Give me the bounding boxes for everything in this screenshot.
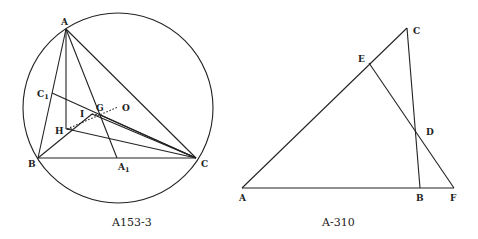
figure-a153-3: A B C A1 C1 H I G O A153-3 bbox=[23, 13, 213, 229]
label-a: A bbox=[238, 193, 247, 203]
label-b: B bbox=[28, 159, 36, 169]
label-c: C bbox=[201, 159, 208, 169]
segment-ch bbox=[67, 129, 196, 158]
label-o: O bbox=[122, 103, 130, 113]
label-h: H bbox=[55, 126, 64, 136]
side-cb bbox=[407, 28, 420, 188]
label-f: F bbox=[450, 193, 457, 203]
label-c1: C1 bbox=[37, 89, 49, 101]
label-e: E bbox=[358, 54, 365, 64]
figure-a-310: A B F C E D A-310 bbox=[238, 26, 457, 229]
label-d: D bbox=[426, 127, 434, 137]
label-g: G bbox=[96, 103, 104, 113]
label-i: I bbox=[80, 109, 84, 119]
side-ac bbox=[66, 29, 196, 158]
label-a: A bbox=[60, 17, 69, 27]
geometry-figures: A B C A1 C1 H I G O A153-3 A B F C E D A… bbox=[0, 0, 478, 239]
label-c: C bbox=[413, 26, 420, 36]
side-ac bbox=[242, 28, 407, 188]
label-b: B bbox=[416, 193, 424, 203]
circumcircle bbox=[23, 13, 213, 203]
caption-a-310: A-310 bbox=[321, 216, 355, 229]
euler-line bbox=[67, 107, 118, 129]
caption-a153-3: A153-3 bbox=[111, 216, 152, 229]
label-a1: A1 bbox=[117, 162, 130, 174]
